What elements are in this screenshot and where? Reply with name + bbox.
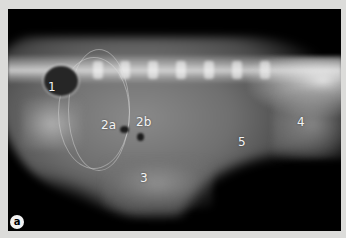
figure-panel: 1 2a 2b 3 4 5 a [0,0,346,238]
structure-4 [273,89,341,159]
structure-3 [103,159,213,209]
vertebra [176,61,186,79]
background-dark-top [8,9,341,45]
label-2a: 2a [101,119,116,131]
radiograph-image: 1 2a 2b 3 4 5 [8,9,341,231]
vertebra [204,61,214,79]
label-1: 1 [48,81,56,93]
spine [8,54,341,84]
vertebra [120,61,130,79]
gas-bubble [137,133,144,141]
background-dark-belly-left [8,179,138,231]
liver-region [22,99,82,149]
vertebra [148,61,158,79]
vertebra [232,61,242,79]
vertebra [93,61,103,79]
vertebra [260,61,270,79]
label-2b: 2b [136,116,151,128]
gas-bubble [120,126,129,133]
label-5: 5 [238,136,246,148]
label-3: 3 [140,172,148,184]
soft-tissue-silhouette [8,37,341,217]
background-dark-belly-right [178,154,341,231]
panel-label-badge: a [10,215,24,229]
label-4: 4 [297,116,305,128]
